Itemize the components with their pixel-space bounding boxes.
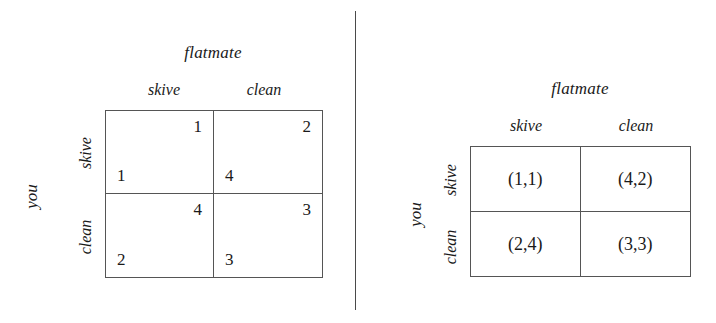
pair-cell-clean-skive: (2,4) bbox=[471, 212, 581, 277]
right-column-header-skive: skive bbox=[471, 118, 581, 134]
pair-value-skive-skive: (1,1) bbox=[471, 170, 580, 188]
bimatrix-row-payoff-clean-skive: 2 bbox=[117, 251, 126, 268]
bimatrix-row-payoff-skive-clean: 4 bbox=[225, 167, 234, 184]
left-row-player-label: you bbox=[23, 157, 40, 237]
bimatrix-cell-skive-clean: 2 4 bbox=[214, 111, 322, 194]
right-column-player-label: flatmate bbox=[480, 80, 680, 97]
left-column-header-skive: skive bbox=[115, 82, 213, 98]
pair-value-skive-clean: (4,2) bbox=[581, 170, 691, 188]
pair-cell-skive-clean: (4,2) bbox=[581, 147, 691, 212]
left-column-player-label: flatmate bbox=[113, 44, 313, 61]
right-column-header-clean: clean bbox=[581, 118, 691, 134]
bimatrix-cell-clean-clean: 3 3 bbox=[214, 194, 322, 277]
bimatrix-cell-clean-skive: 4 2 bbox=[106, 194, 214, 277]
bimatrix-cell-skive-skive: 1 1 bbox=[106, 111, 214, 194]
bimatrix-column-payoff-clean-clean: 3 bbox=[303, 201, 312, 218]
right-row-header-clean: clean bbox=[443, 207, 459, 287]
left-row-header-clean: clean bbox=[78, 197, 94, 277]
bimatrix-row-payoff-skive-skive: 1 bbox=[117, 167, 126, 184]
payoff-pair-table: (1,1) (4,2) (2,4) (3,3) bbox=[470, 146, 691, 277]
figure-canvas: flatmate skive clean you skive clean 1 1… bbox=[0, 0, 716, 323]
bimatrix-row-payoff-clean-clean: 3 bbox=[225, 251, 234, 268]
left-row-header-skive: skive bbox=[78, 113, 94, 193]
pair-value-clean-skive: (2,4) bbox=[471, 235, 580, 253]
pair-cell-skive-skive: (1,1) bbox=[471, 147, 581, 212]
panel-divider bbox=[355, 11, 356, 310]
pair-cell-clean-clean: (3,3) bbox=[581, 212, 691, 277]
bimatrix-column-payoff-skive-skive: 1 bbox=[194, 118, 203, 135]
bimatrix-column-payoff-clean-skive: 4 bbox=[194, 201, 203, 218]
left-column-header-clean: clean bbox=[215, 82, 313, 98]
bimatrix-column-payoff-skive-clean: 2 bbox=[303, 118, 312, 135]
pair-value-clean-clean: (3,3) bbox=[581, 235, 691, 253]
right-row-player-label: you bbox=[407, 175, 424, 255]
bimatrix-table: 1 1 2 4 4 2 3 3 bbox=[105, 110, 323, 278]
